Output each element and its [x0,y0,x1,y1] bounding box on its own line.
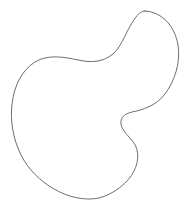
shape-canvas-svg: Closed freeform blob outline [0,0,189,208]
drawing-canvas: Closed freeform blob outline [0,0,189,208]
canvas-background [0,0,189,208]
